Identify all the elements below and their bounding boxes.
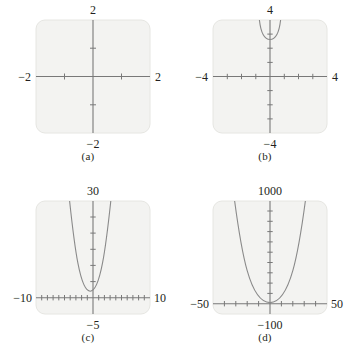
panel-b-label-xleft: −4: [195, 70, 208, 84]
panel-d-label-ybottom: −100: [258, 318, 283, 332]
panel-b-label-ybottom: −4: [264, 137, 277, 151]
panel-c: 30 −5 −10 10 (c): [0, 179, 176, 358]
panel-d-label-xright: 50: [331, 297, 343, 311]
panel-c-label-xright: 10: [154, 291, 166, 305]
panel-b-caption: (b): [177, 150, 353, 162]
panel-b: 4 −4 −4 4 (b): [177, 0, 353, 179]
panel-b-label-xright: 4: [332, 70, 338, 84]
panel-a: 2 −2 −2 2 (a): [0, 0, 176, 179]
panel-c-caption: (c): [0, 331, 176, 343]
panel-d: 1000 −100 −50 50 (d): [177, 179, 353, 358]
panel-c-label-xleft: −10: [13, 291, 32, 305]
panel-b-label-ytop: 4: [267, 3, 273, 17]
panel-a-caption: (a): [0, 150, 176, 162]
panel-c-label-ybottom: −5: [87, 318, 100, 332]
panel-a-label-ybottom: −2: [87, 137, 100, 151]
panel-a-label-ytop: 2: [90, 3, 96, 17]
panel-d-label-xleft: −50: [190, 297, 209, 311]
panel-d-caption: (d): [177, 331, 353, 343]
panel-d-label-ytop: 1000: [258, 184, 282, 198]
figure-four-graph-panels: 2 −2 −2 2 (a): [0, 0, 353, 358]
panel-c-label-ytop: 30: [87, 184, 99, 198]
panel-a-label-xright: 2: [155, 70, 161, 84]
panel-a-label-xleft: −2: [18, 70, 31, 84]
